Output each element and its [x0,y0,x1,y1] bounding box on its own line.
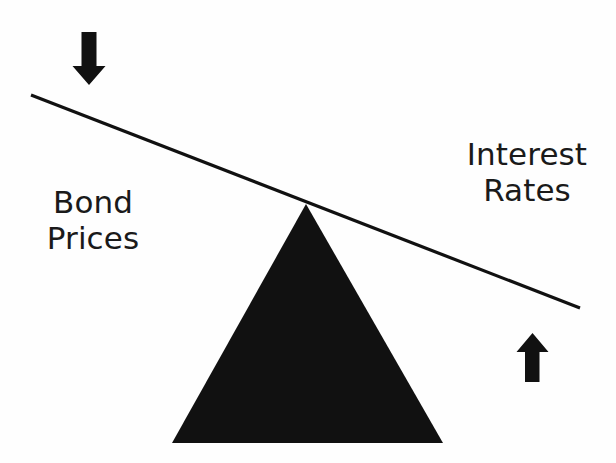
interest-rates-label: Interest Rates [434,136,616,208]
bond-prices-label-line-2: Prices [0,220,186,256]
up-arrow-icon [517,333,549,382]
interest-rates-label-line-2: Rates [434,172,616,208]
bond-prices-label-line-1: Bond [0,184,186,220]
seesaw-diagram: Bond Prices Interest Rates [0,0,616,463]
interest-rates-label-line-1: Interest [434,136,616,172]
down-arrow-icon [73,32,106,85]
bond-prices-label: Bond Prices [0,184,186,256]
